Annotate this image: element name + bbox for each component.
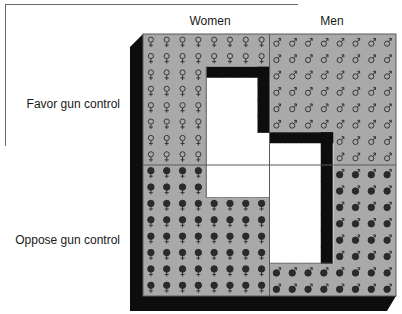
pictogram-grid [0, 0, 402, 314]
